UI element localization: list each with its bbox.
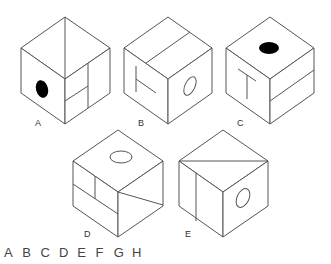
cube-c-filled-oval: [259, 42, 279, 54]
cube-d: [73, 130, 163, 237]
cube-b: [124, 17, 212, 124]
cube-a: [21, 17, 110, 124]
answer-option-h[interactable]: H: [132, 245, 150, 260]
answer-option-b[interactable]: B: [22, 245, 40, 260]
answer-option-g[interactable]: G: [114, 245, 132, 260]
cube-label-a: A: [35, 118, 41, 128]
answer-option-f[interactable]: F: [95, 245, 113, 260]
cube-label-e: E: [185, 229, 191, 239]
cube-label-d: D: [84, 229, 91, 239]
cube-diagram: [0, 0, 331, 264]
cube-c: [226, 17, 314, 124]
cube-label-b: B: [138, 118, 144, 128]
answer-option-e[interactable]: E: [77, 245, 95, 260]
answer-option-c[interactable]: C: [41, 245, 59, 260]
cube-e: [179, 130, 268, 237]
answer-option-a[interactable]: A: [4, 245, 22, 260]
answer-options: A B C D E F G H: [4, 245, 150, 260]
cube-label-c: C: [237, 118, 244, 128]
answer-option-d[interactable]: D: [59, 245, 77, 260]
